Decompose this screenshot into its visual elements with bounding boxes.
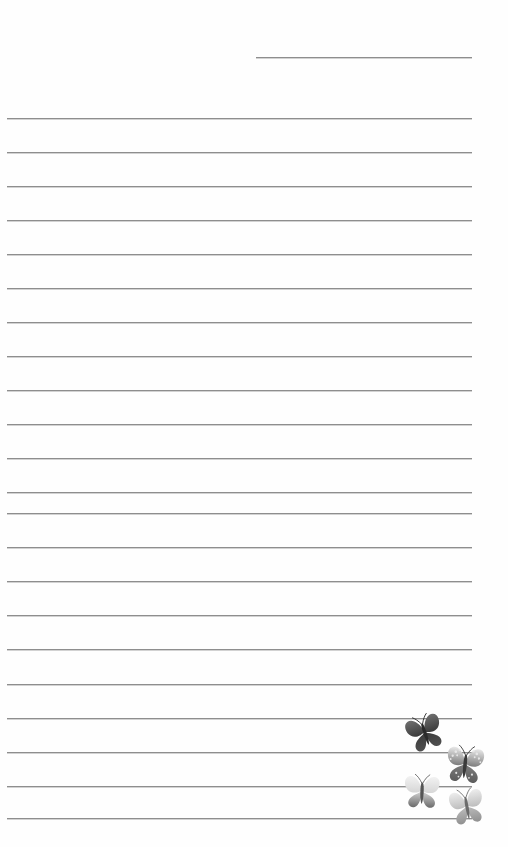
ruled-line-15 xyxy=(7,581,472,582)
butterfly-speckled-icon xyxy=(441,741,489,789)
ruled-line-13 xyxy=(7,513,472,514)
ruled-line-8 xyxy=(7,356,472,357)
butterfly-light-gradient-icon xyxy=(400,771,443,812)
notebook-page xyxy=(0,0,508,847)
ruled-line-9 xyxy=(7,390,472,391)
ruled-line-10 xyxy=(7,424,472,425)
header-rule-line xyxy=(256,57,472,58)
ruled-line-2 xyxy=(7,152,472,153)
ruled-line-20 xyxy=(7,752,472,753)
ruled-line-22 xyxy=(7,818,472,819)
ruled-line-21 xyxy=(7,786,472,787)
ruled-line-6 xyxy=(7,288,472,289)
butterfly-pale-icon xyxy=(444,783,491,831)
ruled-line-5 xyxy=(7,254,472,255)
ruled-line-3 xyxy=(7,186,472,187)
ruled-line-4 xyxy=(7,220,472,221)
ruled-line-7 xyxy=(7,322,472,323)
ruled-line-14 xyxy=(7,547,472,548)
ruled-line-19 xyxy=(7,718,472,719)
ruled-line-16 xyxy=(7,615,472,616)
ruled-line-17 xyxy=(7,649,472,650)
ruled-line-1 xyxy=(7,118,472,119)
ruled-line-12 xyxy=(7,492,472,493)
ruled-line-18 xyxy=(7,684,472,685)
ruled-line-11 xyxy=(7,458,472,459)
